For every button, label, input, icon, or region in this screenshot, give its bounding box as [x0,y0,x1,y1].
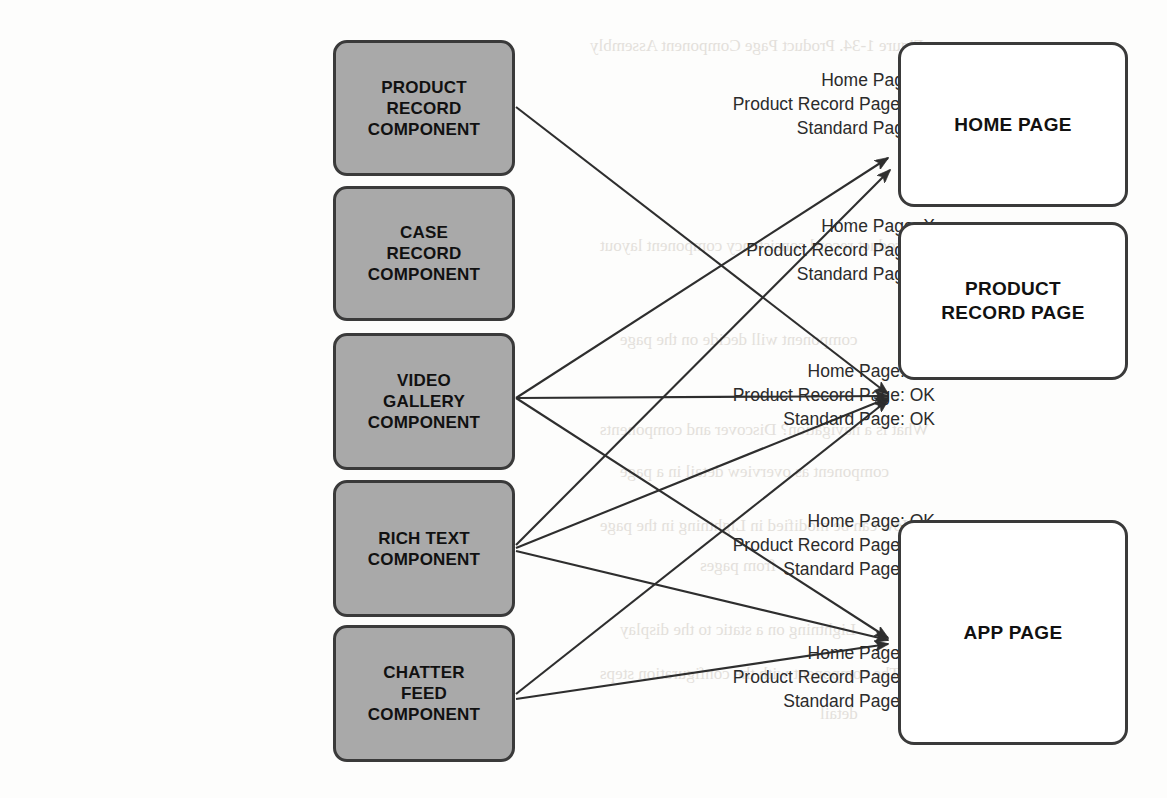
component-label-line: VIDEO [368,370,480,391]
page-label: PRODUCTRECORD PAGE [941,277,1084,325]
page-label: APP PAGE [964,621,1063,645]
component-label-line: COMPONENT [368,549,480,570]
component-label: CASERECORDCOMPONENT [362,222,486,285]
diagram-canvas: Figure 1-34. Product Page Component Asse… [0,0,1167,798]
scan-bleed-text: Lightning on a static to the display [620,620,856,640]
component-label: VIDEOGALLERYCOMPONENT [362,370,486,433]
product-record-page[interactable]: PRODUCTRECORD PAGE [898,222,1128,380]
component-label-line: FEED [368,683,480,704]
page-label-line: RECORD PAGE [941,301,1084,325]
component-label-line: COMPONENT [368,119,480,140]
home-page[interactable]: HOME PAGE [898,42,1128,207]
component-label-line: GALLERY [368,391,480,412]
component-label-line: COMPONENT [368,264,480,285]
component-label: CHATTERFEEDCOMPONENT [362,662,486,725]
scan-bleed-text: component as overview detail in a page [620,462,889,482]
component-label-line: CASE [368,222,480,243]
case-record-component[interactable]: CASERECORDCOMPONENT [333,186,515,321]
component-label-line: RICH TEXT [368,528,480,549]
component-label-line: PRODUCT [368,77,480,98]
scan-bleed-text: component will decide on the page [620,330,857,350]
app-page[interactable]: APP PAGE [898,520,1128,745]
product-record-component[interactable]: PRODUCTRECORDCOMPONENT [333,40,515,176]
component-label: PRODUCTRECORDCOMPONENT [362,77,486,140]
component-label-line: COMPONENT [368,704,480,725]
rich-text-component[interactable]: RICH TEXTCOMPONENT [333,480,515,617]
video-gallery-component[interactable]: VIDEOGALLERYCOMPONENT [333,333,515,470]
scan-bleed-text: Figure 1-34. Product Page Component Asse… [590,36,923,56]
component-label: RICH TEXTCOMPONENT [362,528,486,570]
page-label-line: PRODUCT [941,277,1084,301]
page-label-line: APP PAGE [964,621,1063,645]
component-label-line: RECORD [368,243,480,264]
chatter-feed-component[interactable]: CHATTERFEEDCOMPONENT [333,625,515,762]
page-label: HOME PAGE [954,113,1071,137]
page-label-line: HOME PAGE [954,113,1071,137]
component-label-line: CHATTER [368,662,480,683]
component-label-line: RECORD [368,98,480,119]
component-label-line: COMPONENT [368,412,480,433]
